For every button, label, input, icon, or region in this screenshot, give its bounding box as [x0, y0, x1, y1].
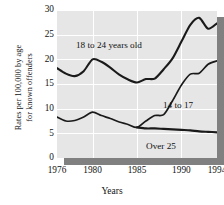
series-line-3 — [137, 127, 217, 132]
series-label-over-25: Over 25 — [146, 142, 176, 151]
series-line-2 — [57, 61, 217, 128]
y-axis-tick-label: 30 — [32, 5, 54, 14]
x-axis-tick-label: 1976 — [48, 166, 67, 175]
y-axis-tick-label: 10 — [32, 104, 54, 113]
plot-lines — [57, 10, 217, 158]
x-axis-title: Years — [0, 186, 224, 196]
x-axis-tick-label: 1980 — [83, 166, 102, 175]
x-axis-tick-label: 1994 — [208, 166, 224, 175]
x-axis-tick-label: 1990 — [172, 166, 191, 175]
panel-shadow-bottom — [64, 158, 224, 165]
x-axis-tick-labels: 19761980198519901994 — [0, 166, 224, 180]
y-axis-tick-label: 25 — [32, 30, 54, 39]
y-axis-title-line1: Rates per 100,000 by age — [14, 13, 25, 163]
panel-shadow-right — [217, 17, 224, 165]
x-axis-tick-label: 1985 — [128, 166, 147, 175]
y-axis-tick-label: 15 — [32, 79, 54, 88]
y-axis-tick-label: 0 — [32, 153, 54, 162]
y-axis-tick-label: 5 — [32, 129, 54, 138]
series-label-18-to-24: 18 to 24 years old — [76, 41, 142, 50]
y-axis-tick-label: 20 — [32, 55, 54, 64]
chart-figure: Rates per 100,000 by age for known offen… — [0, 0, 224, 205]
plot-panel — [57, 10, 217, 158]
series-label-14-to-17: 14 to 17 — [163, 101, 193, 110]
